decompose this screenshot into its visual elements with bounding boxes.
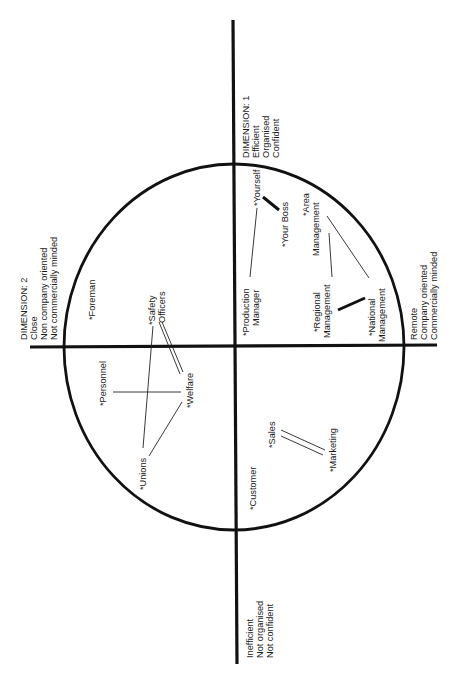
node-unions: *Unions	[138, 457, 148, 490]
link-safety-unions	[143, 326, 153, 448]
svg-text:*Personnel: *Personnel	[98, 361, 108, 406]
dimension-2-negative-label: Remote Company oriented Commercially min…	[409, 252, 439, 340]
svg-text:Not organised: Not organised	[255, 601, 265, 658]
node-safety-officers: *Safety Officers	[147, 291, 167, 325]
node-yourself: *Yourself	[252, 169, 262, 206]
node-area-management: *Area Management	[301, 192, 321, 256]
svg-text:Manager: Manager	[251, 290, 261, 326]
svg-text:Confident: Confident	[271, 118, 281, 158]
node-production-manager: *Production Manager	[241, 289, 261, 337]
svg-text:Remote: Remote	[409, 308, 419, 340]
link-safety-welfare-a	[159, 322, 180, 374]
dimension-1-negative-label: Inefficient Not organised Not confident	[245, 601, 275, 658]
svg-text:*Your Boss: *Your Boss	[280, 201, 290, 247]
link-welfare-unions	[149, 402, 182, 456]
svg-text:Close: Close	[29, 317, 39, 341]
node-customer: *Customer	[248, 467, 258, 510]
link-yourself-yourboss	[263, 197, 279, 210]
svg-text:*Area: *Area	[301, 192, 311, 216]
link-sales-marketing-b	[281, 436, 323, 455]
svg-text:Not confident: Not confident	[265, 603, 275, 658]
svg-text:*Safety: *Safety	[147, 295, 157, 325]
svg-text:Commercially minded: Commercially minded	[429, 252, 439, 340]
svg-text:*National: *National	[367, 299, 377, 336]
node-regional-management: *Regional Management	[312, 284, 332, 338]
node-your-boss: *Your Boss	[280, 201, 290, 247]
svg-text:*Unions: *Unions	[138, 457, 148, 490]
svg-text:Management: Management	[311, 202, 321, 256]
link-regional-national	[338, 298, 365, 310]
svg-text:*Production: *Production	[241, 289, 251, 337]
svg-text:DIMENSION: 2: DIMENSION: 2	[19, 278, 29, 340]
svg-text:Efficient: Efficient	[251, 125, 261, 158]
perceptual-map: DIMENSION: 1 Efficient Organised Confide…	[0, 0, 450, 685]
svg-text:*Customer: *Customer	[248, 467, 258, 510]
svg-text:*Foreman: *Foreman	[87, 280, 97, 320]
svg-text:Inefficient: Inefficient	[245, 618, 255, 658]
svg-text:Not commercially minded: Not commercially minded	[49, 237, 59, 340]
svg-text:Management: Management	[322, 284, 332, 338]
svg-text:DIMENSION: 1: DIMENSION: 1	[241, 96, 251, 158]
link-area-regional	[329, 233, 332, 277]
node-foreman: *Foreman	[87, 280, 97, 320]
svg-text:*Welfare: *Welfare	[185, 373, 195, 408]
node-national-management: *National Management	[367, 288, 387, 342]
svg-text:Officers: Officers	[157, 291, 167, 323]
svg-text:*Regional: *Regional	[312, 292, 322, 332]
svg-text:*Yourself: *Yourself	[252, 169, 262, 206]
node-welfare: *Welfare	[185, 373, 195, 408]
link-sales-marketing-a	[281, 430, 325, 450]
dimension-1-positive-label: DIMENSION: 1 Efficient Organised Confide…	[241, 96, 281, 158]
node-marketing: *Marketing	[328, 428, 338, 472]
link-yourself-production-manager	[250, 208, 257, 277]
node-sales: *Sales	[267, 421, 277, 448]
dimension-2-axis	[30, 345, 437, 347]
svg-text:Organised: Organised	[261, 116, 271, 158]
svg-text:*Sales: *Sales	[267, 421, 277, 448]
dimension-2-positive-label: DIMENSION: 2 Close Non company oriented …	[19, 237, 59, 340]
svg-text:Company oriented: Company oriented	[419, 265, 429, 340]
dimension-1-axis	[233, 20, 237, 664]
svg-text:Non company oriented: Non company oriented	[39, 248, 49, 340]
node-personnel: *Personnel	[98, 361, 108, 406]
svg-text:Management: Management	[377, 288, 387, 342]
svg-text:*Marketing: *Marketing	[328, 428, 338, 472]
